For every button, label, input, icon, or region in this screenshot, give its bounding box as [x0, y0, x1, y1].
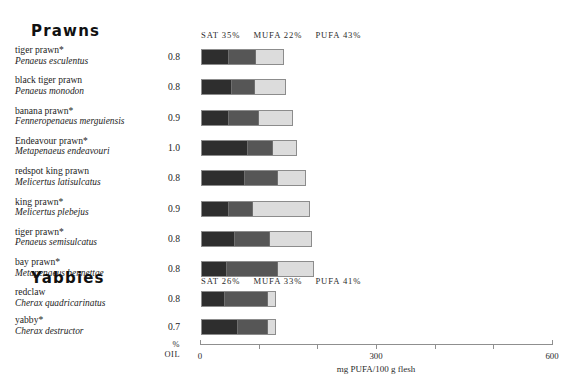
- legend-yabbies: SAT 26% MUFA 33% PUFA 41%: [201, 276, 361, 286]
- axis-tick: [317, 344, 318, 349]
- stacked-bar: [201, 49, 284, 65]
- stacked-bar: [201, 110, 293, 126]
- legend-prawns: SAT 35% MUFA 22% PUFA 43%: [201, 30, 361, 40]
- percent-oil-value: 0.7: [150, 321, 180, 332]
- axis-caption: mg PUFA/100 g flesh: [200, 364, 552, 374]
- percent-oil-value: 0.8: [150, 81, 180, 92]
- bar-segment-pufa: [270, 232, 311, 246]
- axis-tick: [376, 344, 377, 349]
- species-row: redclawCherax quadricarinatus0.8: [0, 286, 576, 316]
- legend-sat-label: SAT 26%: [201, 276, 240, 286]
- percent-oil-value: 0.8: [150, 263, 180, 274]
- species-row: black tiger prawnPenaeus monodon0.8: [0, 74, 576, 104]
- bar-segment-sat: [202, 262, 227, 276]
- legend-sat-label: SAT 35%: [201, 30, 240, 40]
- percent-oil-value: 0.9: [150, 112, 180, 123]
- percent-oil-value: 0.8: [150, 51, 180, 62]
- bar-segment-pufa: [278, 262, 313, 276]
- stacked-bar: [201, 79, 286, 95]
- axis-tick-label: 600: [545, 351, 558, 361]
- stacked-bar: [201, 170, 306, 186]
- percent-oil-value: 0.8: [150, 293, 180, 304]
- bar-segment-mufa: [248, 141, 273, 155]
- chart-page: Prawns SAT 35% MUFA 22% PUFA 43% tiger p…: [0, 0, 576, 386]
- x-axis: % OIL 0300600 mg PUFA/100 g flesh: [0, 340, 576, 386]
- bar-segment-pufa: [268, 292, 275, 306]
- stacked-bar: [201, 291, 276, 307]
- bar-segment-sat: [202, 80, 232, 94]
- axis-tick-label: 0: [198, 351, 202, 361]
- species-row: Endeavour prawn*Metapenaeus endeavouri1.…: [0, 135, 576, 165]
- percent-oil-value: 1.0: [150, 142, 180, 153]
- bar-segment-mufa: [232, 80, 255, 94]
- group-title-prawns: Prawns: [31, 22, 100, 40]
- stacked-bar: [201, 201, 310, 217]
- bar-segment-mufa: [245, 171, 278, 185]
- bar-segment-mufa: [227, 262, 278, 276]
- species-row: king prawn*Melicertus plebejus0.9: [0, 196, 576, 226]
- bar-segment-sat: [202, 171, 245, 185]
- axis-tick-label: 300: [369, 351, 382, 361]
- bar-segment-pufa: [273, 141, 296, 155]
- bar-segment-sat: [202, 232, 235, 246]
- bar-segment-mufa: [229, 111, 259, 125]
- legend-pufa-label: PUFA 43%: [315, 30, 361, 40]
- bar-segment-pufa: [268, 320, 275, 334]
- bar-segment-pufa: [278, 171, 305, 185]
- legend-pufa-label: PUFA 41%: [315, 276, 361, 286]
- bar-segment-sat: [202, 141, 248, 155]
- bar-segment-sat: [202, 292, 225, 306]
- species-row: tiger prawn*Penaeus esculentus0.8: [0, 44, 576, 74]
- axis-tick: [493, 344, 494, 349]
- axis-tick: [259, 344, 260, 349]
- bar-segment-mufa: [229, 202, 253, 216]
- bar-segment-sat: [202, 50, 229, 64]
- axis-oil-text: OIL: [150, 350, 180, 360]
- axis-tick: [552, 340, 553, 345]
- axis-percent-symbol: %: [150, 340, 180, 350]
- group-title-yabbies: Yabbies: [31, 269, 105, 287]
- stacked-bar: [201, 140, 297, 156]
- bar-segment-mufa: [229, 50, 256, 64]
- bar-segment-pufa: [253, 202, 309, 216]
- bar-segment-pufa: [256, 50, 283, 64]
- percent-oil-value: 0.8: [150, 172, 180, 183]
- percent-oil-value: 0.9: [150, 203, 180, 214]
- axis-tick: [200, 340, 201, 345]
- bar-segment-mufa: [238, 320, 268, 334]
- species-row: tiger prawn*Penaeus semisulcatus0.8: [0, 226, 576, 256]
- axis-oil-label: % OIL: [150, 340, 180, 360]
- bar-segment-sat: [202, 111, 229, 125]
- bar-segment-sat: [202, 202, 229, 216]
- stacked-bar: [201, 261, 314, 277]
- stacked-bar: [201, 319, 276, 335]
- legend-mufa-label: MUFA 22%: [253, 30, 302, 40]
- stacked-bar: [201, 231, 312, 247]
- percent-oil-value: 0.8: [150, 233, 180, 244]
- axis-tick: [435, 344, 436, 349]
- bar-segment-mufa: [225, 292, 268, 306]
- species-row: banana prawn*Fenneropenaeus merguiensis0…: [0, 105, 576, 135]
- bar-segment-mufa: [235, 232, 270, 246]
- bar-segment-pufa: [259, 111, 292, 125]
- legend-mufa-label: MUFA 33%: [253, 276, 302, 286]
- bar-segment-sat: [202, 320, 238, 334]
- species-row: redspot king prawnMelicertus latisulcatu…: [0, 165, 576, 195]
- bar-segment-pufa: [255, 80, 285, 94]
